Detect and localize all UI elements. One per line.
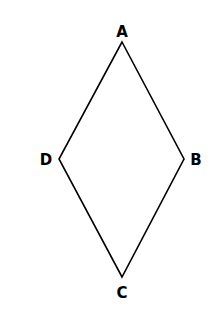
vertex-label-d: D (40, 151, 52, 169)
vertex-label-a: A (116, 23, 128, 41)
rhombus-shape (59, 42, 184, 277)
rhombus-diagram: A B C D (0, 0, 213, 324)
diagram-canvas: A B C D (0, 0, 213, 324)
vertex-label-b: B (190, 151, 201, 169)
vertex-label-c: C (116, 284, 127, 302)
